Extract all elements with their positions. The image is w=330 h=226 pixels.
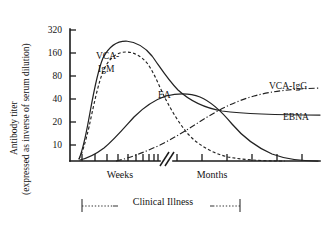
curve-label-vca-igg: VCA-IgG xyxy=(269,81,307,91)
chart-container: Antibody titer (expressed as inverse of … xyxy=(0,0,330,226)
y-tick-label-40: 40 xyxy=(53,94,63,104)
x-axis-label-weeks: Weeks xyxy=(107,169,134,180)
curve-label-vca-igm-line2: IgM xyxy=(98,64,115,74)
antibody-titer-chart: Antibody titer (expressed as inverse of … xyxy=(0,0,330,226)
y-axis-label-line2: (expressed as inverse of serum dilution) xyxy=(21,43,32,195)
curve-ebna xyxy=(116,88,320,161)
x-axis-label-months: Months xyxy=(197,169,228,180)
y-tick-label-160: 160 xyxy=(48,48,63,58)
clinical-illness-bracket: Clinical Illness xyxy=(82,196,240,212)
curve-label-ea: EA xyxy=(158,90,171,100)
y-tick-label-320: 320 xyxy=(48,25,63,35)
clinical-illness-label: Clinical Illness xyxy=(133,196,193,207)
y-tick-label-10: 10 xyxy=(53,140,63,150)
y-tick-labels: 320 160 80 40 20 10 xyxy=(48,25,63,150)
y-tick-label-80: 80 xyxy=(53,71,63,81)
y-tick-label-20: 20 xyxy=(53,117,63,127)
y-axis-ticks xyxy=(70,30,76,145)
curve-label-vca-igm-line1: VCA- xyxy=(96,51,119,61)
curve-label-ebna: EBNA xyxy=(283,112,309,122)
x-axis-break-icon xyxy=(160,152,174,166)
y-axis-label-line1: Antibody titer xyxy=(9,101,19,155)
y-axis-label: Antibody titer (expressed as inverse of … xyxy=(9,43,32,195)
